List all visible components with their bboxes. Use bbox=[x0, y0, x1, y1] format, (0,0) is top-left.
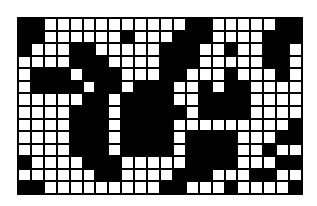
filled-cell bbox=[122, 32, 133, 43]
empty-cell bbox=[148, 69, 159, 80]
empty-cell bbox=[58, 57, 69, 68]
filled-cell bbox=[264, 170, 275, 181]
empty-cell bbox=[58, 145, 69, 156]
filled-cell bbox=[174, 182, 185, 193]
empty-cell bbox=[45, 57, 56, 68]
empty-cell bbox=[251, 19, 262, 30]
empty-cell bbox=[122, 157, 133, 168]
empty-cell bbox=[213, 170, 224, 181]
empty-cell bbox=[32, 145, 43, 156]
empty-cell bbox=[58, 182, 69, 193]
empty-cell bbox=[58, 19, 69, 30]
filled-cell bbox=[135, 82, 146, 93]
filled-cell bbox=[174, 44, 185, 55]
empty-cell bbox=[290, 107, 301, 118]
empty-cell bbox=[45, 145, 56, 156]
empty-cell bbox=[174, 157, 185, 168]
filled-cell bbox=[277, 44, 288, 55]
empty-cell bbox=[32, 120, 43, 131]
filled-cell bbox=[135, 145, 146, 156]
filled-cell bbox=[109, 69, 120, 80]
filled-cell bbox=[96, 69, 107, 80]
empty-cell bbox=[290, 145, 301, 156]
empty-cell bbox=[109, 44, 120, 55]
filled-cell bbox=[290, 132, 301, 143]
filled-cell bbox=[200, 19, 211, 30]
empty-cell bbox=[32, 44, 43, 55]
filled-cell bbox=[187, 44, 198, 55]
filled-cell bbox=[200, 157, 211, 168]
filled-cell bbox=[161, 145, 172, 156]
empty-cell bbox=[213, 19, 224, 30]
empty-cell bbox=[148, 44, 159, 55]
empty-cell bbox=[161, 19, 172, 30]
filled-cell bbox=[226, 182, 237, 193]
empty-cell bbox=[32, 94, 43, 105]
empty-cell bbox=[58, 32, 69, 43]
filled-cell bbox=[213, 94, 224, 105]
empty-cell bbox=[238, 157, 249, 168]
filled-cell bbox=[277, 132, 288, 143]
empty-cell bbox=[135, 170, 146, 181]
empty-cell bbox=[251, 157, 262, 168]
filled-cell bbox=[200, 170, 211, 181]
filled-cell bbox=[19, 44, 30, 55]
filled-cell bbox=[161, 44, 172, 55]
empty-cell bbox=[238, 69, 249, 80]
empty-cell bbox=[148, 157, 159, 168]
empty-cell bbox=[213, 182, 224, 193]
empty-cell bbox=[213, 120, 224, 131]
filled-cell bbox=[264, 44, 275, 55]
filled-cell bbox=[71, 82, 82, 93]
filled-cell bbox=[84, 107, 95, 118]
empty-cell bbox=[109, 145, 120, 156]
filled-cell bbox=[96, 94, 107, 105]
filled-cell bbox=[32, 19, 43, 30]
empty-cell bbox=[71, 19, 82, 30]
filled-cell bbox=[264, 57, 275, 68]
filled-cell bbox=[148, 107, 159, 118]
empty-cell bbox=[84, 170, 95, 181]
empty-cell bbox=[251, 94, 262, 105]
filled-cell bbox=[238, 107, 249, 118]
empty-cell bbox=[135, 182, 146, 193]
filled-cell bbox=[109, 82, 120, 93]
empty-cell bbox=[148, 170, 159, 181]
empty-cell bbox=[200, 182, 211, 193]
filled-cell bbox=[200, 107, 211, 118]
filled-cell bbox=[96, 132, 107, 143]
empty-cell bbox=[238, 32, 249, 43]
empty-cell bbox=[32, 157, 43, 168]
empty-cell bbox=[264, 94, 275, 105]
filled-cell bbox=[200, 145, 211, 156]
empty-cell bbox=[45, 132, 56, 143]
empty-cell bbox=[251, 107, 262, 118]
empty-cell bbox=[71, 69, 82, 80]
filled-cell bbox=[161, 94, 172, 105]
empty-cell bbox=[19, 170, 30, 181]
filled-cell bbox=[122, 145, 133, 156]
empty-cell bbox=[251, 145, 262, 156]
empty-cell bbox=[71, 94, 82, 105]
filled-cell bbox=[238, 82, 249, 93]
empty-cell bbox=[264, 69, 275, 80]
empty-cell bbox=[45, 32, 56, 43]
filled-cell bbox=[277, 19, 288, 30]
filled-cell bbox=[174, 107, 185, 118]
empty-cell bbox=[238, 132, 249, 143]
empty-cell bbox=[238, 145, 249, 156]
empty-cell bbox=[174, 145, 185, 156]
empty-cell bbox=[187, 82, 198, 93]
empty-cell bbox=[187, 69, 198, 80]
filled-cell bbox=[84, 132, 95, 143]
empty-cell bbox=[19, 94, 30, 105]
filled-cell bbox=[96, 157, 107, 168]
empty-cell bbox=[226, 19, 237, 30]
filled-cell bbox=[226, 132, 237, 143]
filled-cell bbox=[71, 120, 82, 131]
filled-cell bbox=[71, 145, 82, 156]
empty-cell bbox=[264, 19, 275, 30]
filled-cell bbox=[187, 145, 198, 156]
filled-cell bbox=[213, 157, 224, 168]
filled-cell bbox=[148, 132, 159, 143]
